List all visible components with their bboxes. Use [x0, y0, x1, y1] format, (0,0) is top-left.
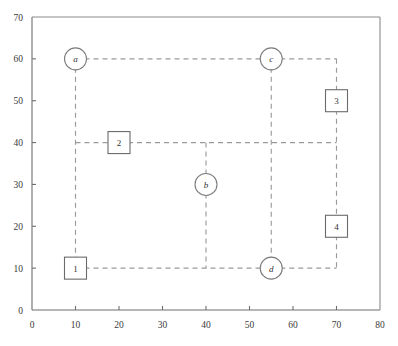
node-3[interactable]: 3: [326, 90, 348, 112]
x-tick-label: 80: [375, 320, 385, 330]
y-tick-label: 50: [14, 96, 24, 106]
x-tick-label: 30: [158, 320, 168, 330]
node-label-text: b: [204, 180, 209, 190]
y-tick-label: 70: [14, 13, 24, 23]
node-label-text: c: [269, 54, 273, 64]
node-d[interactable]: d: [260, 257, 282, 279]
y-tick-label: 20: [14, 222, 24, 232]
node-label-text: a: [73, 54, 78, 64]
node-label-text: d: [269, 264, 274, 274]
y-tick-label: 0: [18, 306, 23, 316]
node-b[interactable]: b: [195, 173, 217, 195]
x-tick-label: 60: [288, 320, 298, 330]
node-c[interactable]: c: [260, 48, 282, 70]
y-tick-label: 40: [14, 138, 24, 148]
edge-layer: [76, 59, 337, 268]
node-a[interactable]: a: [65, 48, 87, 70]
x-tick-label: 70: [332, 320, 342, 330]
x-tick-label: 50: [245, 320, 255, 330]
x-tick-label: 10: [71, 320, 81, 330]
node-2[interactable]: 2: [108, 132, 130, 154]
x-tick-label: 20: [114, 320, 124, 330]
node-1[interactable]: 1: [65, 257, 87, 279]
node-label-text: 3: [334, 96, 339, 106]
y-tick-label: 10: [14, 264, 24, 274]
y-tick-label: 60: [14, 54, 24, 64]
y-tick-label: 30: [14, 180, 24, 190]
x-tick-label: 40: [201, 320, 211, 330]
node-label-text: 4: [334, 222, 339, 232]
node-4[interactable]: 4: [326, 215, 348, 237]
plot-canvas: abcd1234 0102030405060708001020304050607…: [0, 0, 398, 346]
node-label-text: 1: [73, 264, 78, 274]
diagram-figure: abcd1234 0102030405060708001020304050607…: [0, 0, 398, 346]
node-label-text: 2: [117, 138, 122, 148]
x-tick-label: 0: [30, 320, 35, 330]
